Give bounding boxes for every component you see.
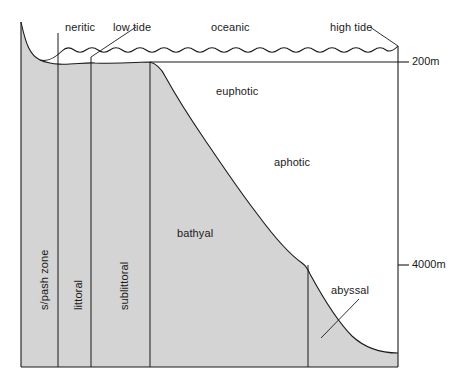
seabed-landmass-shape <box>21 22 398 367</box>
depth-label-200m: 200m <box>412 56 440 67</box>
label-bathyal: bathyal <box>177 228 213 239</box>
marine-zones-diagram: neritic low tide oceanic high tide eupho… <box>0 0 459 387</box>
label-splash-zone: s/pash zone <box>39 250 50 310</box>
label-littoral: littoral <box>73 280 84 310</box>
label-sublittoral: sublittoral <box>119 262 130 310</box>
diagram-canvas <box>0 0 459 387</box>
label-euphotic: euphotic <box>216 86 258 97</box>
label-high-tide: high tide <box>330 22 373 33</box>
label-low-tide: low tide <box>113 22 151 33</box>
label-aphotic: aphotic <box>274 157 310 168</box>
label-neritic: neritic <box>65 22 95 33</box>
sea-surface-wave-line <box>40 46 398 60</box>
depth-label-4000m: 4000m <box>412 259 446 270</box>
label-oceanic: oceanic <box>211 22 250 33</box>
label-abyssal: abyssal <box>331 285 369 296</box>
high-tide-leader-line <box>370 27 398 46</box>
